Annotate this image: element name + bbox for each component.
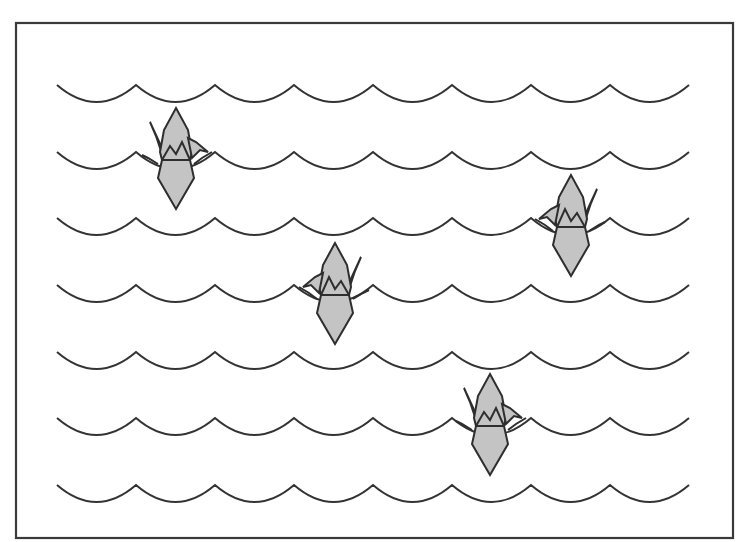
crane-3-part-3 [303,273,323,293]
crane-4-part-4 [472,426,508,475]
crane-4-part-6 [456,421,472,430]
wave-row-5 [57,352,689,369]
crane-1-part-4 [158,160,194,209]
crane-2-part-3 [539,205,559,225]
crane-1-icon [142,108,212,209]
wave-rows [57,85,689,502]
crane-1-part-3 [188,138,208,158]
crane-4-part-3 [502,404,522,424]
crane-3-part-6 [353,290,369,299]
crane-2-part-6 [589,222,605,231]
wave-row-3 [57,218,689,235]
crane-4-icon [456,374,526,475]
crane-2-icon [535,175,605,276]
wave-row-6 [57,418,689,435]
crane-3-icon [299,243,369,344]
picture-frame [16,23,733,538]
wave-row-7 [57,485,689,502]
crane-3-part-4 [317,295,353,344]
wave-row-4 [57,285,689,302]
crane-2-part-4 [553,227,589,276]
illustration-canvas [0,0,748,542]
wave-row-1 [57,85,689,102]
